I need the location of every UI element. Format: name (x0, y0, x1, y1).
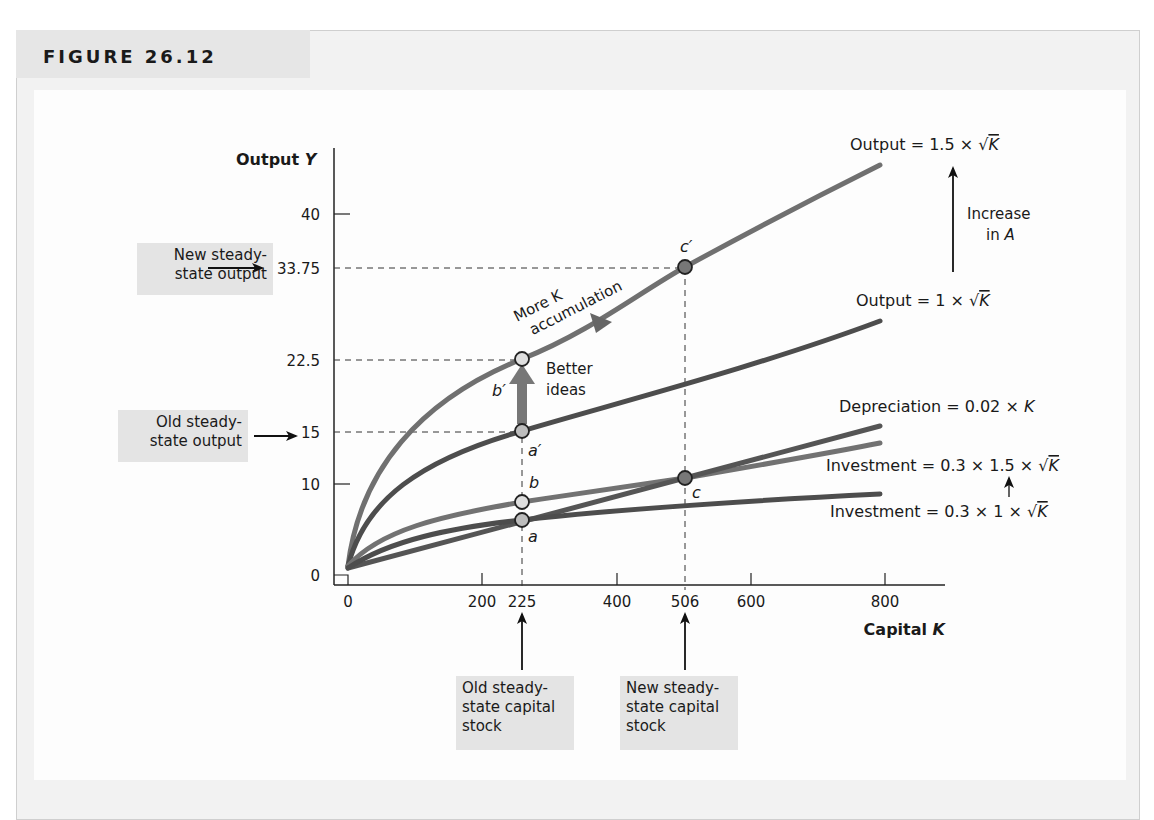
more-k-accumulation-label: More K accumulation (511, 260, 625, 343)
svg-text:506: 506 (671, 593, 700, 611)
x-axis-title: Capital K (864, 620, 947, 639)
better-ideas-arrow (509, 364, 535, 424)
label-investment-1-5: Investment = 0.3 × 1.5 × √K (826, 456, 1060, 475)
svg-text:225: 225 (508, 593, 537, 611)
curve-output-1-5 (348, 165, 880, 566)
svg-text:10: 10 (301, 476, 320, 494)
point-a (515, 513, 529, 527)
label-c-prime: c′ (680, 237, 693, 256)
label-investment-1: Investment = 0.3 × 1 × √K (830, 502, 1049, 521)
point-a-prime (515, 424, 529, 438)
curve-output-1 (348, 321, 880, 566)
label-depreciation: Depreciation = 0.02 × K (839, 397, 1036, 416)
point-c (678, 471, 692, 485)
svg-text:22.5: 22.5 (287, 352, 320, 370)
better-label: Better (546, 360, 594, 378)
label-b-prime: b′ (492, 381, 506, 400)
point-b (515, 495, 529, 509)
x-tick-labels: 0 200 225 400 506 600 800 (343, 593, 899, 611)
svg-text:0: 0 (343, 593, 353, 611)
increase-label: Increase (967, 205, 1030, 223)
y-ticks (334, 214, 350, 484)
label-c: c (692, 483, 701, 502)
x-ticks (482, 573, 885, 585)
svg-text:800: 800 (871, 593, 900, 611)
svg-text:15: 15 (301, 424, 320, 442)
origin-marker (334, 575, 348, 585)
label-a-prime: a′ (528, 441, 542, 460)
label-output-1: Output = 1 × √K (856, 291, 991, 310)
guide-lines (334, 268, 685, 590)
y-tick-labels: 40 33.75 22.5 15 10 0 (277, 206, 320, 585)
in-a-label: in A (986, 226, 1015, 244)
curve-investment-1 (348, 494, 880, 568)
point-c-prime (678, 260, 692, 274)
ideas-label: ideas (546, 381, 586, 399)
point-b-prime (515, 352, 529, 366)
label-b: b (529, 473, 539, 492)
svg-text:600: 600 (737, 593, 766, 611)
label-a: a (528, 527, 538, 546)
svg-text:40: 40 (301, 206, 320, 224)
svg-text:200: 200 (468, 593, 497, 611)
svg-text:33.75: 33.75 (277, 260, 320, 278)
y-axis-title: Output Y (236, 150, 318, 169)
label-output-1-5: Output = 1.5 × √K (850, 135, 1000, 154)
svg-text:400: 400 (603, 593, 632, 611)
svg-text:0: 0 (310, 567, 320, 585)
